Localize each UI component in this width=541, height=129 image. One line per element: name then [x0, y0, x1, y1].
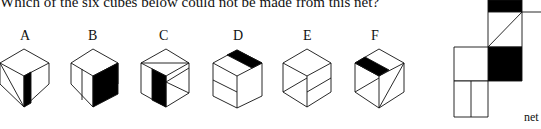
- cube-e[interactable]: [283, 49, 331, 107]
- cube-d[interactable]: [213, 50, 262, 108]
- net-label: net: [524, 110, 539, 125]
- cube-net: [454, 0, 541, 117]
- figures: [0, 0, 541, 129]
- cube-a[interactable]: [0, 49, 49, 107]
- cube-f[interactable]: [355, 49, 404, 108]
- cube-c[interactable]: [141, 49, 189, 107]
- cube-b[interactable]: [71, 49, 118, 107]
